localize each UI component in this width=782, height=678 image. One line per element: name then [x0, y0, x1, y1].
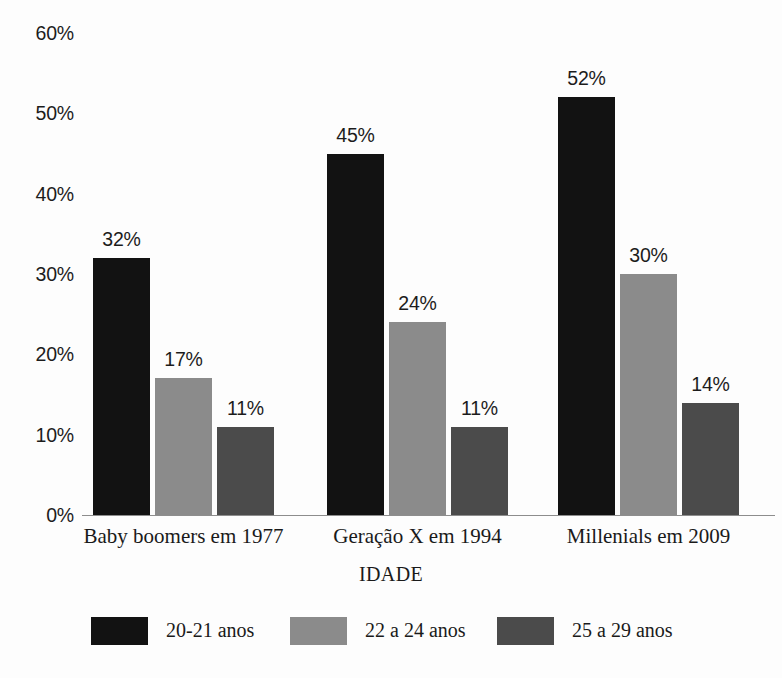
bar [558, 97, 615, 515]
y-axis-tick-label: 30% [36, 263, 74, 286]
y-axis-tick-label: 0% [46, 504, 74, 527]
bar [93, 258, 150, 515]
chart-legend: 20-21 anos22 a 24 anos25 a 29 anos [0, 615, 782, 649]
bar [620, 274, 677, 515]
x-axis-title: IDADE [0, 563, 782, 586]
bar-value-label: 52% [567, 67, 605, 90]
bar-value-label: 11% [227, 397, 264, 420]
y-axis-tick-label: 50% [36, 102, 74, 125]
legend-label: 20-21 anos [166, 619, 254, 642]
bar-value-label: 30% [629, 244, 667, 267]
bar-value-label: 32% [102, 228, 140, 251]
y-axis-tick-label: 20% [36, 343, 74, 366]
x-axis-category-label: Baby boomers em 1977 [83, 524, 283, 549]
x-axis-category-label: Geração X em 1994 [333, 524, 502, 549]
bar [327, 154, 384, 516]
bar [155, 378, 212, 515]
x-axis-category-label: Millenials em 2009 [567, 524, 730, 549]
x-axis-line [82, 515, 775, 516]
legend-swatch-icon [91, 617, 148, 645]
legend-label: 22 a 24 anos [365, 619, 466, 642]
bar [217, 427, 274, 515]
bar [682, 403, 739, 515]
legend-label: 25 a 29 anos [572, 619, 673, 642]
bar-value-label: 11% [461, 397, 498, 420]
legend-swatch-icon [290, 617, 347, 645]
y-axis-tick-label: 10% [36, 423, 74, 446]
bar [389, 322, 446, 515]
bar-value-label: 14% [691, 373, 729, 396]
y-axis-tick-label: 40% [36, 182, 74, 205]
bar-value-label: 45% [336, 124, 374, 147]
bar-chart: 60%50%40%30%20%10%0% Baby boomers em 197… [0, 0, 782, 678]
y-axis-tick-label: 60% [36, 22, 74, 45]
legend-swatch-icon [497, 617, 554, 645]
bar [451, 427, 508, 515]
bar-value-label: 17% [164, 348, 202, 371]
bar-value-label: 24% [398, 292, 436, 315]
